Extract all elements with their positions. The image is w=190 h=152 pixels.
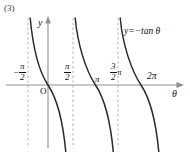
numerator: π (19, 62, 26, 71)
pi-suffix: π (118, 68, 122, 77)
origin-label: O (40, 86, 47, 96)
tick-label-three-half-pi: 32π (110, 62, 122, 83)
tangent-graph-figure: (3) y θ O y=−tan θ −π2 π2 π 32π (0, 0, 190, 152)
equation-label: y=−tan θ (124, 26, 160, 36)
denominator: 2 (19, 73, 26, 82)
tick-label-two-pi: 2π (147, 71, 157, 81)
denominator: 2 (64, 73, 71, 82)
tick-label-neg-half-pi: −π2 (13, 62, 26, 83)
y-axis-label: y (38, 17, 42, 28)
x-axis-arrowhead (177, 82, 185, 88)
tick-label-pi: π (95, 74, 100, 84)
x-axis-label: θ (172, 88, 177, 99)
numerator: π (64, 62, 71, 71)
y-axis-arrowhead (45, 16, 51, 24)
numerator: 3 (110, 62, 117, 71)
tick-label-half-pi: π2 (64, 62, 71, 83)
denominator: 2 (110, 73, 117, 82)
